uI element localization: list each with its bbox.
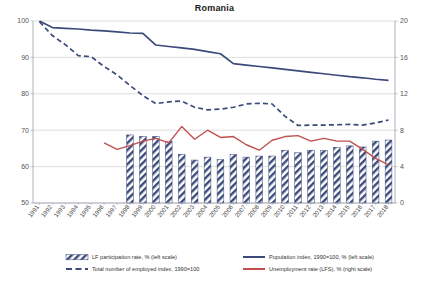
year-label: 2010 (272, 203, 286, 219)
legend-item[interactable]: LF participation rate, % (left scale) (66, 254, 177, 260)
year-label: 2005 (207, 203, 221, 219)
year-label: 1992 (39, 203, 53, 219)
year-label: 1998 (117, 203, 131, 219)
bar (191, 160, 198, 203)
bar (346, 146, 353, 203)
year-label: 2012 (298, 203, 312, 219)
left-axis-tick: 70 (21, 127, 29, 134)
right-axis-tick: 4 (400, 163, 404, 170)
bar (372, 141, 379, 203)
right-axis-tick: 12 (400, 90, 408, 97)
left-axis-ticks: 1009080706050 (17, 17, 33, 206)
year-label: 1994 (65, 203, 79, 219)
year-label: 1999 (130, 203, 144, 219)
year-label: 2018 (375, 203, 389, 219)
legend-label: Unemployment rate (LFS), % (right scale) (269, 266, 372, 272)
bar (295, 153, 302, 203)
left-axis-tick: 60 (21, 163, 29, 170)
bar (256, 156, 263, 203)
legend-item[interactable]: Unemployment rate (LFS), % (right scale) (243, 266, 372, 272)
axis-lines (33, 21, 395, 203)
year-label: 1996 (91, 203, 105, 219)
legend-label: Total number of employed index, 1990=100 (92, 266, 199, 272)
left-axis-tick: 50 (21, 199, 29, 206)
year-label: 2011 (285, 203, 299, 218)
chart-container: Romania 1009080706050 201612840 19911992… (0, 0, 429, 287)
year-label: 2017 (362, 203, 376, 219)
bar (243, 157, 250, 203)
year-label: 2001 (156, 203, 170, 219)
year-label: 1993 (52, 203, 66, 219)
year-label: 1997 (104, 203, 118, 219)
employed_index-line (39, 22, 388, 126)
chart-title: Romania (0, 3, 429, 13)
bar (204, 157, 211, 203)
bar (282, 150, 289, 203)
gridlines (33, 21, 395, 203)
bar (308, 150, 315, 203)
bar (140, 136, 147, 203)
year-label: 2007 (233, 203, 247, 219)
population_index-line (39, 21, 388, 80)
x-axis-year-labels: 1991199219931994199519961997199819992000… (26, 203, 389, 219)
right-axis-tick: 8 (400, 127, 404, 134)
right-axis-tick: 16 (400, 54, 408, 61)
left-axis-tick: 100 (17, 17, 29, 24)
left-axis-tick: 80 (21, 90, 29, 97)
year-label: 2006 (220, 203, 234, 219)
right-axis-tick: 0 (400, 199, 404, 206)
year-label: 2008 (246, 203, 260, 219)
year-label: 2013 (311, 203, 325, 219)
bar (321, 151, 328, 203)
bar (385, 140, 392, 203)
year-label: 2002 (168, 203, 182, 219)
legend-label: Population index, 1990=100, % (left scal… (269, 254, 374, 260)
legend-item[interactable]: Population index, 1990=100, % (left scal… (243, 254, 374, 260)
year-label: 2014 (324, 203, 338, 219)
bar (230, 155, 237, 203)
right-axis-tick: 20 (400, 17, 408, 24)
bar (333, 147, 340, 203)
series-lines (39, 21, 388, 165)
year-label: 2016 (349, 203, 363, 219)
bar (269, 156, 276, 203)
chart-legend: LF participation rate, % (left scale)Pop… (66, 254, 374, 272)
year-label: 1995 (78, 203, 92, 219)
bar (178, 154, 185, 203)
bar (165, 141, 172, 203)
year-label: 2009 (259, 203, 273, 219)
legend-item[interactable]: Total number of employed index, 1990=100 (66, 266, 199, 272)
bar (152, 136, 159, 203)
legend-label: LF participation rate, % (left scale) (92, 254, 177, 260)
hatch-swatch-icon (66, 255, 88, 260)
left-axis-tick: 90 (21, 54, 29, 61)
year-label: 2000 (143, 203, 157, 219)
year-label: 2003 (181, 203, 195, 219)
year-label: 2004 (194, 203, 208, 219)
chart-plot-area: 1009080706050 201612840 1991199219931994… (0, 0, 429, 287)
year-label: 2015 (337, 203, 351, 219)
bar (359, 147, 366, 203)
right-axis-ticks: 201612840 (395, 17, 408, 206)
lf-participation-bars (127, 135, 392, 203)
bar (217, 160, 224, 203)
